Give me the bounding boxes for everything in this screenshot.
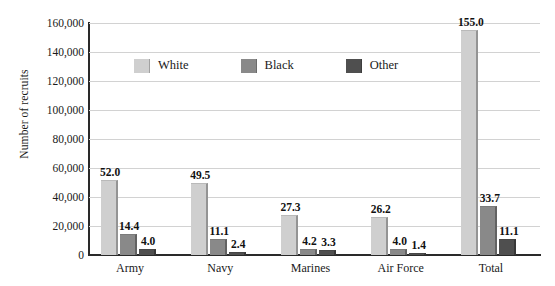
y-axis-tick-label: 80,000 bbox=[10, 133, 84, 145]
y-axis-tick-labels: 020,00040,00060,00080,000100,000120,0001… bbox=[8, 23, 84, 255]
y-axis-tick-label: 40,000 bbox=[10, 191, 84, 203]
x-axis-tick-label: Marines bbox=[291, 261, 330, 276]
bar-value-label: 14.4 bbox=[119, 220, 139, 232]
bar-value-label: 1.4 bbox=[412, 239, 426, 251]
bar-chart: Number of recruits 020,00040,00060,00080… bbox=[0, 0, 555, 286]
legend-swatch-black-icon bbox=[241, 59, 257, 73]
y-axis-tick-label: 60,000 bbox=[10, 162, 84, 174]
bar-value-label: 2.4 bbox=[231, 238, 245, 250]
bar-value-label: 155.0 bbox=[458, 16, 484, 28]
bar bbox=[461, 30, 478, 255]
bar-value-label: 27.3 bbox=[280, 201, 300, 213]
legend-label-black: Black bbox=[265, 58, 294, 73]
x-axis-tick-label: Total bbox=[479, 261, 504, 276]
legend-item-other: Other bbox=[346, 58, 398, 73]
bar-value-label: 4.0 bbox=[141, 235, 155, 247]
bar-value-label: 4.0 bbox=[393, 235, 407, 247]
y-axis-tick-label: 0 bbox=[10, 249, 84, 261]
bar bbox=[300, 249, 317, 255]
bar bbox=[371, 217, 388, 255]
bar-value-label: 33.7 bbox=[480, 192, 500, 204]
legend-label-other: Other bbox=[370, 58, 398, 73]
y-axis-tick-label: 20,000 bbox=[10, 220, 84, 232]
bar-value-label: 52.0 bbox=[100, 166, 120, 178]
bar-value-label: 11.1 bbox=[499, 225, 519, 237]
bar-value-label: 49.5 bbox=[190, 169, 210, 181]
bar bbox=[229, 252, 246, 255]
bar-value-label: 11.1 bbox=[210, 225, 230, 237]
bar bbox=[480, 206, 497, 255]
bar bbox=[409, 253, 426, 255]
y-axis-tick-label: 120,000 bbox=[10, 75, 84, 87]
y-axis-tick-label: 100,000 bbox=[10, 104, 84, 116]
legend-item-black: Black bbox=[241, 58, 294, 73]
y-axis-tick-label: 160,000 bbox=[10, 17, 84, 29]
bar bbox=[281, 215, 298, 255]
bar bbox=[499, 239, 516, 255]
bar bbox=[390, 249, 407, 255]
bar bbox=[191, 183, 208, 255]
bar bbox=[120, 234, 137, 255]
bar-value-label: 4.2 bbox=[302, 235, 316, 247]
chart-legend: White Black Other bbox=[134, 58, 398, 73]
x-axis-tick-label: Navy bbox=[207, 261, 233, 276]
bar bbox=[101, 180, 118, 255]
bar-value-label: 26.2 bbox=[371, 203, 391, 215]
bar bbox=[319, 250, 336, 255]
bar-value-label: 3.3 bbox=[321, 236, 335, 248]
bar bbox=[210, 239, 227, 255]
legend-swatch-other-icon bbox=[346, 59, 362, 73]
bar-group: 155.033.711.1 bbox=[450, 23, 540, 255]
y-axis-tick-label: 140,000 bbox=[10, 46, 84, 58]
x-axis-tick-label: Army bbox=[116, 261, 144, 276]
bar bbox=[139, 249, 156, 255]
x-axis-tick-label: Air Force bbox=[378, 261, 424, 276]
legend-item-white: White bbox=[134, 58, 189, 73]
legend-swatch-white-icon bbox=[134, 59, 150, 73]
legend-label-white: White bbox=[158, 58, 189, 73]
